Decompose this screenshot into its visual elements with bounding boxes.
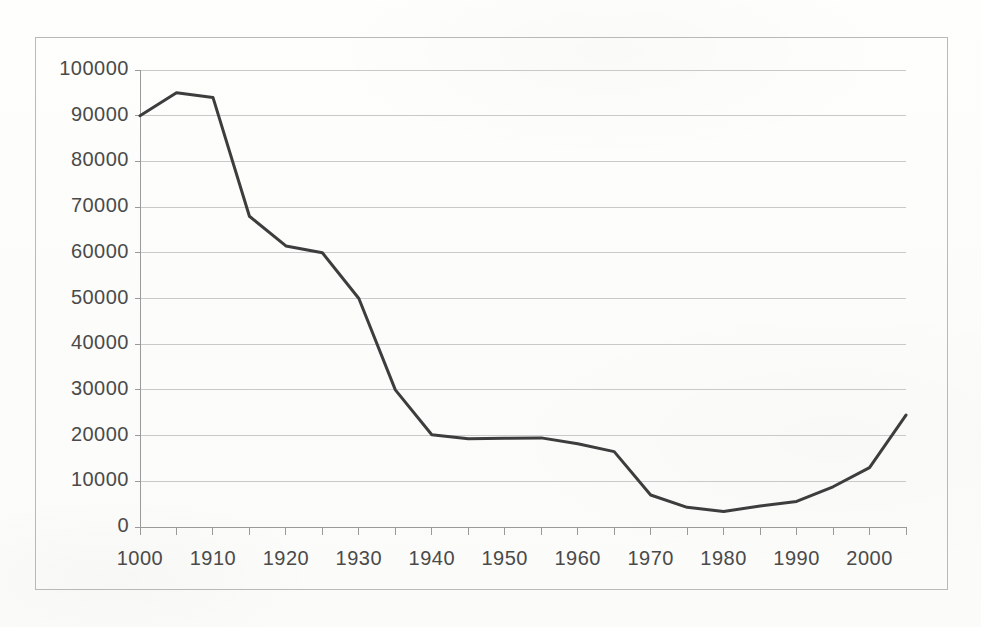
- gridlines-group: [140, 70, 906, 527]
- y-tick-label-10000: 10000: [71, 468, 129, 491]
- y-tick-label-70000: 70000: [71, 194, 129, 217]
- y-tick-label-0: 0: [117, 514, 129, 537]
- y-tick-label-90000: 90000: [71, 103, 129, 126]
- y-tick-label-40000: 40000: [71, 331, 129, 354]
- series-line-series-1: [140, 93, 906, 512]
- y-tick-label-30000: 30000: [71, 377, 129, 400]
- y-tick-label-20000: 20000: [71, 423, 129, 446]
- y-tick-label-100000: 100000: [59, 57, 129, 80]
- x-axis-ticks-group: [140, 527, 906, 535]
- chart-page: 0100002000030000400005000060000700008000…: [0, 0, 981, 627]
- line-chart-plot: [0, 0, 981, 627]
- y-tick-label-80000: 80000: [71, 148, 129, 171]
- y-axis-ticks-group: [135, 70, 140, 527]
- y-tick-label-60000: 60000: [71, 240, 129, 263]
- y-tick-label-50000: 50000: [71, 286, 129, 309]
- data-series-group: [140, 93, 906, 512]
- x-tick-label-2000: 2000: [825, 547, 915, 570]
